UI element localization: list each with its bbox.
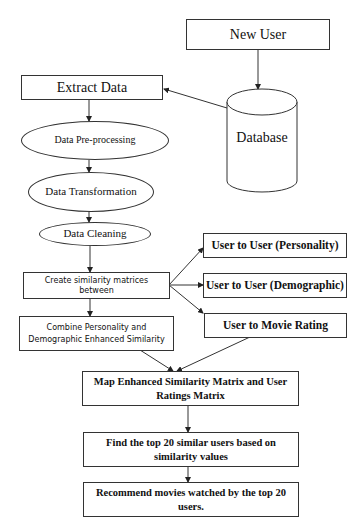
edge-create-personality — [169, 248, 203, 285]
map-matrix-box: Map Enhanced Similarity Matrix and User … — [82, 371, 299, 406]
recommend-label: Recommend movies watched by the top 20 u… — [92, 486, 290, 512]
personality-box: User to User (Personality) — [203, 233, 347, 258]
create-similarity-label: Create similarity matrices between — [30, 276, 163, 296]
personality-label: User to User (Personality) — [212, 238, 339, 252]
edge-movierating-map — [177, 337, 250, 371]
create-similarity-box: Create similarity matrices between — [23, 272, 170, 299]
edge-combine-map — [140, 350, 173, 371]
flowchart-canvas: New User Database Extract Data Data Pre-… — [0, 0, 362, 531]
extract-data-box: Extract Data — [21, 75, 163, 100]
edge-create-movierating — [169, 285, 203, 313]
transformation-ellipse: Data Transformation — [28, 172, 154, 212]
transformation-label: Data Transformation — [45, 185, 136, 199]
database-label: Database — [236, 129, 287, 147]
movie-rating-box: User to Movie Rating — [204, 313, 347, 338]
combine-label: Combine Personality and Demographic Enha… — [28, 322, 165, 345]
demographic-label: User to User (Demographic) — [206, 278, 344, 292]
new-user-box: New User — [186, 19, 330, 50]
pre-processing-label: Data Pre-processing — [55, 134, 136, 147]
cleaning-ellipse: Data Cleaning — [39, 222, 151, 246]
new-user-label: New User — [230, 26, 286, 44]
movie-rating-label: User to Movie Rating — [223, 318, 328, 332]
find-top-box: Find the top 20 similar users based on s… — [83, 432, 299, 467]
extract-data-label: Extract Data — [57, 79, 127, 97]
recommend-box: Recommend movies watched by the top 20 u… — [83, 482, 299, 517]
map-matrix-label: Map Enhanced Similarity Matrix and User … — [93, 375, 288, 401]
demographic-box: User to User (Demographic) — [203, 273, 347, 298]
cleaning-label: Data Cleaning — [63, 227, 126, 241]
edge-database-extract — [164, 89, 227, 108]
pre-processing-ellipse: Data Pre-processing — [21, 121, 169, 160]
combine-box: Combine Personality and Demographic Enha… — [19, 316, 174, 351]
database-node: Database — [227, 118, 297, 158]
find-top-label: Find the top 20 similar users based on s… — [102, 436, 280, 462]
